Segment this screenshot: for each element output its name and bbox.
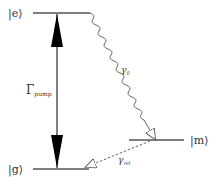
relaxation-rate-label: γrel — [118, 155, 131, 166]
decay-rate-label: γ0 — [121, 65, 130, 76]
relaxation-rate-subscript: rel — [123, 160, 130, 166]
pump-transition-arrow — [51, 14, 63, 168]
pump-rate-subscript: pump — [34, 90, 51, 98]
energy-level-diagram: |e⟩ |m⟩ |g⟩ Γpump γ0 γrel — [0, 0, 217, 186]
pump-rate-symbol: Γ — [26, 83, 34, 97]
level-m-label-text: |m⟩ — [190, 134, 208, 148]
decay-wavy-arrow — [90, 13, 155, 139]
pump-rate-label: Γpump — [26, 83, 52, 98]
pump-arrowhead-down-icon — [51, 135, 63, 168]
level-g-label-text: |g⟩ — [8, 163, 23, 177]
level-m-label: |m⟩ — [190, 134, 208, 148]
level-e-label-text: |e⟩ — [8, 7, 23, 21]
pump-arrowhead-up-icon — [51, 14, 63, 47]
decay-rate-subscript: 0 — [126, 70, 130, 76]
level-g-label: |g⟩ — [8, 163, 23, 177]
level-e-label: |e⟩ — [8, 7, 23, 21]
